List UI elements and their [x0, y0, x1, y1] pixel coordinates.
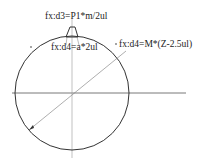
gear-sketch	[0, 0, 201, 164]
radius-label: fx:d4=M*(Z-2.5ul)	[119, 40, 192, 50]
dot-marker	[30, 46, 32, 48]
dot-marker	[115, 43, 117, 45]
tooth-width-label: fx:d3=P1*m/2ul	[45, 12, 107, 22]
radius-dimension-line	[29, 51, 126, 130]
arrowhead	[29, 125, 34, 130]
tooth-depth-label: fx:d4=a*2ul	[51, 43, 98, 53]
